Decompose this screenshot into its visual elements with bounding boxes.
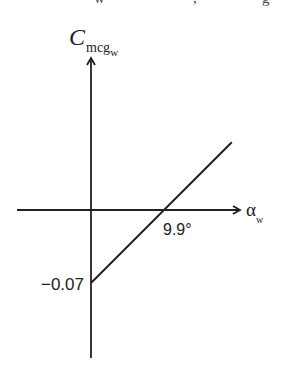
y-axis-label: Cmcgw bbox=[69, 24, 118, 58]
y-label-sub: mcg bbox=[86, 40, 110, 55]
y-intercept-label: −0.07 bbox=[41, 275, 84, 294]
series-line bbox=[91, 142, 232, 283]
y-label-main: C bbox=[69, 24, 86, 50]
y-label-subsub: w bbox=[110, 46, 118, 58]
x-label-main: α bbox=[246, 199, 256, 220]
x-label-sub: w bbox=[256, 214, 264, 225]
moment-coefficient-chart: Cmcgw αw 9.9° −0.07 bbox=[0, 0, 283, 368]
x-intercept-label: 9.9° bbox=[163, 221, 192, 238]
x-axis-label: αw bbox=[246, 199, 264, 225]
